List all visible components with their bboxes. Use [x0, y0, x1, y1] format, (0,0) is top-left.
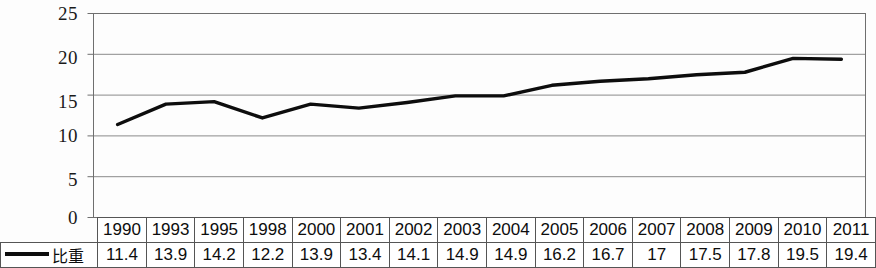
table-cell-year: 1990	[98, 218, 147, 243]
table-cell-year: 2007	[632, 218, 681, 243]
table-cell-value: 19.4	[827, 243, 876, 268]
y-tick-label-5: 5	[0, 170, 78, 189]
y-tick-label-10: 10	[0, 126, 78, 145]
y-tick-10: 10	[0, 126, 78, 145]
table-cell-year: 2005	[535, 218, 584, 243]
table-cell-year: 2006	[584, 218, 633, 243]
table-cell-value: 17.5	[681, 243, 730, 268]
table-cell-value: 16.2	[535, 243, 584, 268]
table-cell-year: 2000	[292, 218, 341, 243]
table-cell-value: 14.2	[195, 243, 244, 268]
table-cell-value: 14.9	[487, 243, 536, 268]
table-cell-value: 13.4	[341, 243, 390, 268]
table-cell-value: 19.5	[778, 243, 827, 268]
table-cell-year: 1998	[243, 218, 292, 243]
table-cell-year: 2010	[778, 218, 827, 243]
y-tick-label-25: 25	[0, 4, 78, 23]
table-cell-value: 11.4	[98, 243, 147, 268]
table-row-values: 比重 11.413.914.212.213.913.414.114.914.91…	[1, 243, 876, 268]
line-marker-icon	[5, 252, 49, 256]
table-cell-year: 2001	[341, 218, 390, 243]
table-cell-year: 2009	[730, 218, 779, 243]
plot-frame	[94, 14, 866, 218]
table-cell-value: 13.9	[292, 243, 341, 268]
plot-area: 25 20 15 10 5 0	[0, 0, 876, 218]
y-tick-25: 25	[0, 4, 78, 23]
y-tick-label-20: 20	[0, 48, 78, 67]
y-tick-20: 20	[0, 48, 78, 67]
legend-cell: 比重	[1, 243, 98, 268]
table-cell-value: 13.9	[146, 243, 195, 268]
y-axis-ticks	[88, 14, 94, 218]
y-tick-5: 5	[0, 170, 78, 189]
table-cell-value: 14.9	[438, 243, 487, 268]
table-cell-year: 2002	[389, 218, 438, 243]
series-line-bizhong	[118, 58, 842, 124]
table-cell-year: 2008	[681, 218, 730, 243]
table-corner-cell	[1, 218, 98, 243]
table-cell-year: 2011	[827, 218, 876, 243]
line-chart-with-data-table: 25 20 15 10 5 0 199019931995199820002001…	[0, 0, 876, 268]
table-cell-value: 12.2	[243, 243, 292, 268]
table-cell-year: 1993	[146, 218, 195, 243]
table-cell-value: 16.7	[584, 243, 633, 268]
legend-series-label: 比重	[52, 243, 84, 267]
table-row-years: 1990199319951998200020012002200320042005…	[1, 218, 876, 243]
table-cell-value: 14.1	[389, 243, 438, 268]
table-cell-year: 2003	[438, 218, 487, 243]
table-cell-value: 17.8	[730, 243, 779, 268]
table-cell-year: 1995	[195, 218, 244, 243]
table-cell-year: 2004	[487, 218, 536, 243]
plot-svg	[0, 0, 876, 218]
y-tick-15: 15	[0, 92, 78, 111]
table-cell-value: 17	[632, 243, 681, 268]
data-table: 1990199319951998200020012002200320042005…	[0, 217, 876, 268]
y-tick-label-15: 15	[0, 92, 78, 111]
